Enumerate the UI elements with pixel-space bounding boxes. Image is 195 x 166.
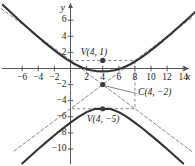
- y-axis-label: y: [61, 3, 65, 13]
- x-tick-label: 8: [129, 73, 140, 83]
- axes-layer: [2, 3, 189, 164]
- center-label: C(4, −2): [138, 88, 171, 98]
- x-tick-label: −6: [17, 73, 28, 83]
- x-tick-label: 12: [162, 73, 173, 83]
- y-tick-label: 6: [52, 15, 67, 25]
- series-upper-branch: [3, 5, 195, 72]
- point-vertex-lower: [100, 106, 105, 111]
- y-tick-label: 2: [52, 48, 67, 58]
- point-vertex-upper: [100, 58, 105, 63]
- plot-canvas: [0, 0, 195, 166]
- x-tick-label: 10: [146, 73, 157, 83]
- x-tick-label: 6: [113, 73, 124, 83]
- y-tick-label: −8: [52, 128, 67, 138]
- vertex-lower-label: V(4, −5): [87, 115, 120, 125]
- vertex-upper-label: V(4, 1): [81, 48, 107, 58]
- y-tick-label: 4: [52, 32, 67, 42]
- y-axis-arrowhead: [68, 3, 73, 8]
- y-tick-label: −10: [52, 144, 67, 154]
- hyperbola-figure: x y −6−4−22468101214 642−2−4−6−8−10 V(4,…: [0, 0, 195, 166]
- y-tick-label: −4: [52, 96, 67, 106]
- point-center: [100, 82, 105, 87]
- x-tick-label: 4: [97, 73, 108, 83]
- x-tick-label: −4: [33, 73, 44, 83]
- x-tick-label: 2: [81, 73, 92, 83]
- y-tick-label: −2: [52, 80, 67, 90]
- y-tick-label: −6: [52, 112, 67, 122]
- hyperbola-curve-layer: [3, 5, 195, 164]
- x-tick-label: 14: [178, 73, 189, 83]
